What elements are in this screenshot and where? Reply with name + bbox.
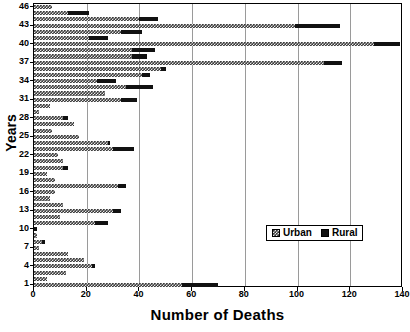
x-tick-label-20: 20 xyxy=(81,290,91,299)
y-tick-label-19: 19 xyxy=(3,168,29,177)
legend-swatch-urban-icon xyxy=(272,229,280,237)
y-tick-mark-7 xyxy=(30,247,33,248)
y-tick-mark-31 xyxy=(30,99,33,100)
y-tick-label-37: 37 xyxy=(3,57,29,66)
y-tick-mark-25 xyxy=(30,136,33,137)
chart-legend: Urban Rural xyxy=(266,225,363,241)
y-tick-mark-43 xyxy=(30,25,33,26)
y-tick-mark-16 xyxy=(30,191,33,192)
x-tick-mark-60 xyxy=(191,287,192,291)
x-tick-label-80: 80 xyxy=(239,290,249,299)
x-tick-mark-140 xyxy=(402,287,403,291)
y-tick-mark-1 xyxy=(30,284,33,285)
legend-swatch-rural-icon xyxy=(321,229,329,237)
x-tick-label-0: 0 xyxy=(30,290,35,299)
legend-label-urban: Urban xyxy=(283,228,312,238)
legend-item-urban: Urban xyxy=(272,228,312,238)
y-tick-label-1: 1 xyxy=(3,279,29,288)
y-tick-mark-22 xyxy=(30,154,33,155)
y-tick-mark-28 xyxy=(30,117,33,118)
y-tick-label-10: 10 xyxy=(3,224,29,233)
x-tick-label-120: 120 xyxy=(342,290,357,299)
x-axis-title: Number of Deaths xyxy=(33,306,402,323)
x-tick-label-140: 140 xyxy=(394,290,409,299)
legend-item-rural: Rural xyxy=(321,228,358,238)
legend-label-rural: Rural xyxy=(332,228,358,238)
y-tick-label-34: 34 xyxy=(3,76,29,85)
y-tick-label-13: 13 xyxy=(3,205,29,214)
y-tick-label-40: 40 xyxy=(3,39,29,48)
y-tick-mark-34 xyxy=(30,80,33,81)
y-tick-mark-46 xyxy=(30,6,33,7)
y-tick-label-46: 46 xyxy=(3,2,29,11)
x-tick-label-60: 60 xyxy=(186,290,196,299)
x-tick-mark-20 xyxy=(86,287,87,291)
x-tick-mark-80 xyxy=(244,287,245,291)
x-tick-mark-100 xyxy=(297,287,298,291)
y-tick-label-4: 4 xyxy=(3,261,29,270)
y-tick-label-16: 16 xyxy=(3,187,29,196)
y-tick-label-7: 7 xyxy=(3,242,29,251)
y-axis-title: Years xyxy=(3,103,19,163)
y-tick-mark-40 xyxy=(30,43,33,44)
y-tick-mark-37 xyxy=(30,62,33,63)
x-tick-label-40: 40 xyxy=(133,290,143,299)
x-tick-mark-0 xyxy=(33,287,34,291)
y-tick-mark-4 xyxy=(30,265,33,266)
y-tick-label-43: 43 xyxy=(3,20,29,29)
y-tick-mark-10 xyxy=(30,228,33,229)
y-tick-label-31: 31 xyxy=(3,94,29,103)
x-tick-label-100: 100 xyxy=(289,290,304,299)
x-tick-mark-40 xyxy=(138,287,139,291)
x-tick-mark-120 xyxy=(349,287,350,291)
y-tick-mark-19 xyxy=(30,173,33,174)
y-tick-mark-13 xyxy=(30,210,33,211)
